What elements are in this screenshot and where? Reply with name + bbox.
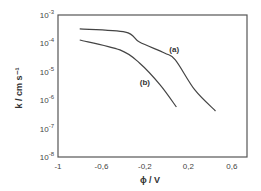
x-tick-label: -1 bbox=[54, 162, 62, 171]
y-tick-label: 10-8 bbox=[40, 151, 55, 162]
y-tick-label: 10-4 bbox=[40, 37, 55, 48]
curve-b bbox=[80, 40, 177, 107]
curves: (a)(b) bbox=[80, 29, 216, 111]
x-tick-label: 0,6 bbox=[226, 162, 238, 171]
x-axis-label: ϕ / V bbox=[140, 175, 160, 185]
x-tick-label: -0,6 bbox=[95, 162, 109, 171]
chart: -1-0,6-0,20,20,6 10-310-410-510-610-710-… bbox=[0, 0, 261, 191]
y-tick-label: 10-6 bbox=[40, 94, 55, 105]
curve-label: (a) bbox=[169, 45, 179, 54]
x-tick-label: -0,2 bbox=[138, 162, 152, 171]
x-axis-ticks: -1-0,6-0,20,20,6 bbox=[54, 162, 237, 171]
y-tick-label: 10-3 bbox=[40, 9, 55, 20]
y-axis-label: k / cm s⁻¹ bbox=[14, 67, 24, 108]
curve-label: (b) bbox=[140, 78, 151, 87]
plot-frame bbox=[58, 15, 247, 157]
y-tick-label: 10-7 bbox=[40, 123, 55, 134]
curve-a bbox=[80, 29, 216, 111]
y-axis-ticks: 10-310-410-510-610-710-8 bbox=[40, 9, 55, 162]
x-tick-label: 0,2 bbox=[183, 162, 195, 171]
y-tick-label: 10-5 bbox=[40, 66, 55, 77]
